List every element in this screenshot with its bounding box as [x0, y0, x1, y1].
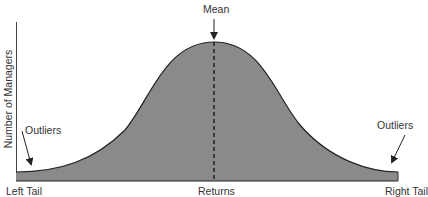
distribution-area — [16, 42, 398, 181]
mean-label: Mean — [203, 3, 229, 15]
left-tail-label: Left Tail — [6, 185, 42, 197]
right-tail-label: Right Tail — [385, 185, 428, 197]
left-outliers-label: Outliers — [25, 124, 61, 136]
returns-label: Returns — [198, 185, 235, 197]
right-outliers-label: Outliers — [377, 119, 413, 131]
right-outliers-arrow-icon — [392, 135, 405, 162]
y-axis-label: Number of Managers — [2, 44, 14, 154]
bell-curve-diagram — [0, 0, 428, 197]
